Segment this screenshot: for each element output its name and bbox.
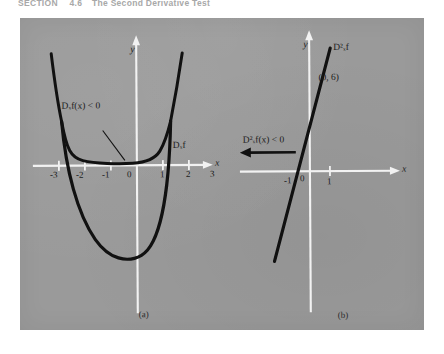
axis-x-b <box>240 167 400 176</box>
caption-b: (b) <box>338 310 349 320</box>
page-header: SECTION 4.6 The Second Derivative Test <box>18 0 318 9</box>
annotation-d2xf-negative: D²ₓf(x) < 0 <box>243 134 285 144</box>
x-tick-label-0: 0 <box>127 169 132 179</box>
curve-dxf-body <box>62 121 172 260</box>
axis-label-y-b: y <box>303 38 308 49</box>
plot-b: y x D²ₓf (0, 6) D²ₓf(x) < 0 -1 0 1 <box>225 16 426 329</box>
annotation-leader-a <box>103 130 125 160</box>
caption-a: (a) <box>139 309 149 319</box>
curve-label-dxf: Dₓf <box>173 140 186 150</box>
axis-label-x-b: x <box>402 163 407 174</box>
plot-a: y x Dₓf(x) < 0 Dₓf -3 -2 -1 0 1 2 3 <box>20 17 232 330</box>
annotation-dxf-negative: Dₓf(x) < 0 <box>62 101 101 111</box>
x-tick-label-3: 3 <box>210 169 215 179</box>
x-tick-label-2: 2 <box>186 169 191 179</box>
header-section-word: SECTION <box>18 0 58 8</box>
figure-panel: y x Dₓf(x) < 0 Dₓf -3 -2 -1 0 1 2 3 <box>20 18 424 330</box>
axis-label-x-a: x <box>215 157 220 168</box>
x-tick-label-b--1: -1 <box>284 175 292 185</box>
axis-label-y-a: y <box>130 43 135 54</box>
x-tick-label--3: -3 <box>50 170 58 180</box>
x-tick-label--2: -2 <box>76 170 84 180</box>
annotation-arrow-left <box>240 147 296 157</box>
point-label-0-6: (0, 6) <box>318 72 339 82</box>
curve-dxf-lower <box>51 54 61 122</box>
curve-label-d2xf: D²ₓf <box>333 42 349 52</box>
curve-dxf <box>62 121 171 164</box>
x-tick-label-1: 1 <box>160 169 165 179</box>
x-tick-label-b-1: 1 <box>327 176 332 186</box>
axis-y-a <box>132 35 141 313</box>
curve-dxf-lower-right <box>170 53 182 121</box>
header-title: The Second Derivative Test <box>92 0 210 8</box>
x-tick-label-b-0: 0 <box>300 173 305 183</box>
x-tick-label--1: -1 <box>102 169 110 179</box>
header-section-number: 4.6 <box>70 0 83 8</box>
